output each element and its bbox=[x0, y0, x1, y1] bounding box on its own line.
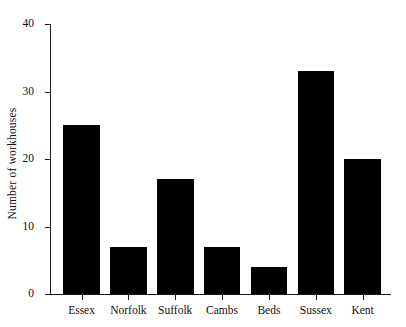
x-tick-label-norfolk: Norfolk bbox=[105, 304, 152, 316]
x-tick-label-sussex: Sussex bbox=[292, 304, 339, 316]
bar-beds bbox=[251, 267, 288, 294]
bar-suffolk bbox=[157, 179, 194, 294]
bar-sussex bbox=[298, 71, 335, 294]
x-tick-norfolk bbox=[128, 295, 129, 300]
x-tick-label-essex: Essex bbox=[58, 304, 105, 316]
bar-essex bbox=[63, 125, 100, 294]
y-axis-line bbox=[50, 24, 51, 295]
bar-chart-figure: Number of workhouses 010203040 EssexNorf… bbox=[0, 0, 406, 327]
y-tick-label-30: 30 bbox=[0, 91, 34, 92]
x-tick-kent bbox=[363, 295, 364, 300]
x-tick-label-beds: Beds bbox=[246, 304, 293, 316]
x-tick-sussex bbox=[316, 295, 317, 300]
x-tick-label-kent: Kent bbox=[339, 304, 386, 316]
x-tick-label-suffolk: Suffolk bbox=[152, 304, 199, 316]
y-tick-30 bbox=[45, 92, 50, 93]
bar-kent bbox=[344, 159, 381, 294]
y-tick-0 bbox=[45, 294, 50, 295]
plot-area: 010203040 EssexNorfolkSuffolkCambsBedsSu… bbox=[50, 24, 391, 294]
y-axis-title: Number of workhouses bbox=[0, 0, 24, 327]
y-tick-20 bbox=[45, 159, 50, 160]
x-tick-label-cambs: Cambs bbox=[199, 304, 246, 316]
x-tick-essex bbox=[82, 295, 83, 300]
bar-norfolk bbox=[110, 247, 147, 294]
y-tick-10 bbox=[45, 227, 50, 228]
y-tick-label-10: 10 bbox=[0, 226, 34, 227]
y-tick-40 bbox=[45, 24, 50, 25]
x-tick-suffolk bbox=[175, 295, 176, 300]
y-tick-label-20: 20 bbox=[0, 158, 34, 159]
y-tick-label-0: 0 bbox=[0, 293, 34, 294]
x-tick-beds bbox=[269, 295, 270, 300]
bar-cambs bbox=[204, 247, 241, 294]
y-tick-label-40: 40 bbox=[0, 23, 34, 24]
x-axis-line bbox=[50, 294, 391, 295]
x-tick-cambs bbox=[222, 295, 223, 300]
